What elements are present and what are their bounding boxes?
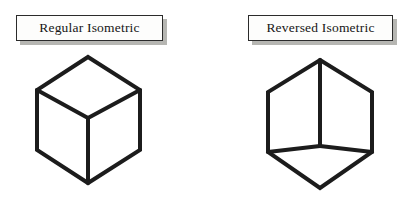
reversed-cube-outline [268,60,372,188]
regular-isometric-label: Regular Isometric [16,15,163,41]
regular-cube-inner-edge-up-right [88,90,140,118]
reversed-cube-inner-edge-down-right [320,146,372,152]
reversed-cube-body-fill [268,60,372,188]
reversed-cube-inner-edge-down-left [268,146,320,152]
isometric-figure-canvas: Regular Isometric Reversed Isometric [0,0,420,204]
reversed-isometric-label: Reversed Isometric [248,15,393,41]
regular-cube-body-fill [37,57,140,183]
regular-cube-outline [37,57,140,183]
regular-cube-inner-edge-up-left [37,90,88,118]
